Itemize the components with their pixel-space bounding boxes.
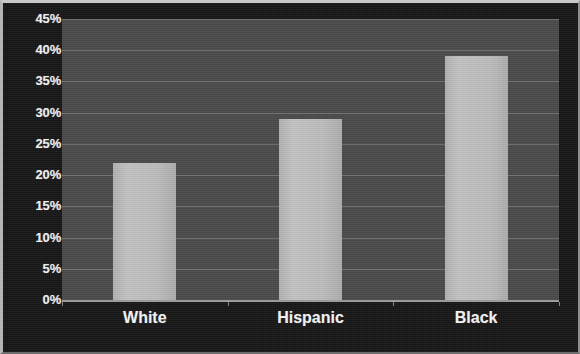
y-axis-tick-label: 30% [9,106,61,119]
bar-hispanic [279,119,342,300]
y-axis-tick-label: 20% [9,168,61,181]
gridline [62,19,559,20]
gridline [62,50,559,51]
x-axis-tick [393,302,394,306]
y-axis-tick-label: 5% [9,262,61,275]
y-axis-tick-label: 10% [9,231,61,244]
plot-area [62,19,559,300]
y-axis-tick-label: 15% [9,199,61,212]
bar-black [445,56,508,300]
bar-chart-figure: 45%40%35%30%25%20%15%10%5%0% WhiteHispan… [0,0,580,354]
x-axis-category-label: White [75,310,215,326]
y-axis-tick-label: 40% [9,43,61,56]
bar-white [113,163,176,300]
x-axis-tick [559,302,560,306]
x-axis-line [62,300,559,302]
y-axis-tick-label: 0% [9,293,61,306]
x-axis-category-label: Black [406,310,546,326]
y-axis-tick-label: 25% [9,137,61,150]
y-axis-tick-label: 35% [9,74,61,87]
x-axis-tick [62,302,63,306]
x-axis-category-label: Hispanic [241,310,381,326]
x-axis-tick [228,302,229,306]
y-axis-tick-label: 45% [9,12,61,25]
